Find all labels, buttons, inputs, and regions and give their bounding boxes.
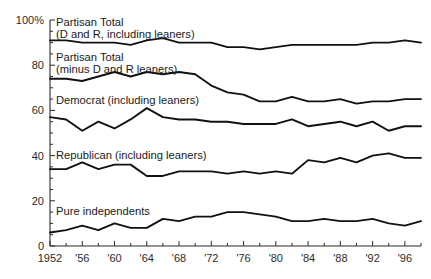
series-label-pure-independents: Pure independents <box>56 205 150 217</box>
series-label-republican: Republican (including leaners) <box>56 149 207 161</box>
y-tick-label: 40 <box>32 150 44 162</box>
x-axis-ticks <box>50 241 421 246</box>
x-tick-label: '88 <box>333 252 347 264</box>
y-tick-label: 0 <box>38 240 44 252</box>
series-label-partisan-total-minus-line2: (minus D and R leaners) <box>56 63 178 75</box>
y-axis-ticks <box>50 20 55 246</box>
series-label-partisan-total-leaners-line1: Partisan Total <box>56 16 124 28</box>
y-axis-tick-labels: 020406080100% <box>16 14 44 252</box>
y-tick-label: 60 <box>32 104 44 116</box>
x-tick-label: '84 <box>301 252 315 264</box>
x-tick-label: '64 <box>140 252 154 264</box>
x-tick-label: 1952 <box>38 252 62 264</box>
x-tick-label: '92 <box>365 252 379 264</box>
series-label-democrat: Democrat (including leaners) <box>56 94 199 106</box>
x-tick-label: '60 <box>107 252 121 264</box>
x-tick-label: '68 <box>172 252 186 264</box>
chart-series-labels: Partisan Total (D and R, including leane… <box>56 16 207 217</box>
x-tick-label: '80 <box>269 252 283 264</box>
y-tick-label: 20 <box>32 195 44 207</box>
series-label-partisan-total-minus-line1: Partisan Total <box>56 51 124 63</box>
x-tick-label: '76 <box>236 252 250 264</box>
y-tick-label: 80 <box>32 59 44 71</box>
chart-container: 020406080100% 1952'56'60'64'68'72'76'80'… <box>0 0 431 279</box>
x-tick-label: '56 <box>75 252 89 264</box>
x-tick-label: '96 <box>398 252 412 264</box>
series-label-partisan-total-leaners-line2: (D and R, including leaners) <box>56 28 195 40</box>
y-tick-label: 100% <box>16 14 44 26</box>
x-tick-label: '72 <box>204 252 218 264</box>
x-axis-tick-labels: 1952'56'60'64'68'72'76'80'84'88'92'96 <box>38 252 412 264</box>
series-line-2 <box>50 108 421 131</box>
line-chart: 020406080100% 1952'56'60'64'68'72'76'80'… <box>0 0 431 279</box>
